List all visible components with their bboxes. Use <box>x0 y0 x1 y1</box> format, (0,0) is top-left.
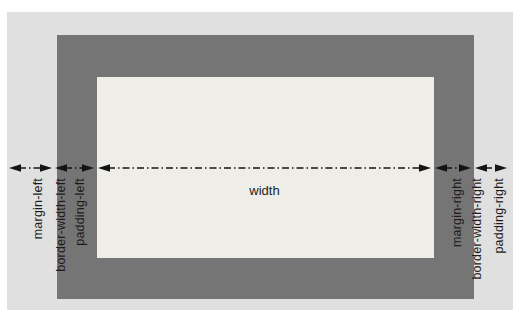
label-padding-left: padding-left <box>72 178 88 246</box>
box-model-diagram: margin-left border-width-left padding-le… <box>0 0 529 331</box>
label-padding-right: padding-right <box>491 178 507 254</box>
label-width: width <box>98 183 431 198</box>
label-margin-right: margin-right <box>449 178 465 247</box>
dimension-arrows <box>0 0 529 331</box>
label-margin-left: margin-left <box>30 178 46 239</box>
label-border-width-left: border-width-left <box>53 178 69 272</box>
label-border-width-right: border-width-right <box>469 178 485 280</box>
